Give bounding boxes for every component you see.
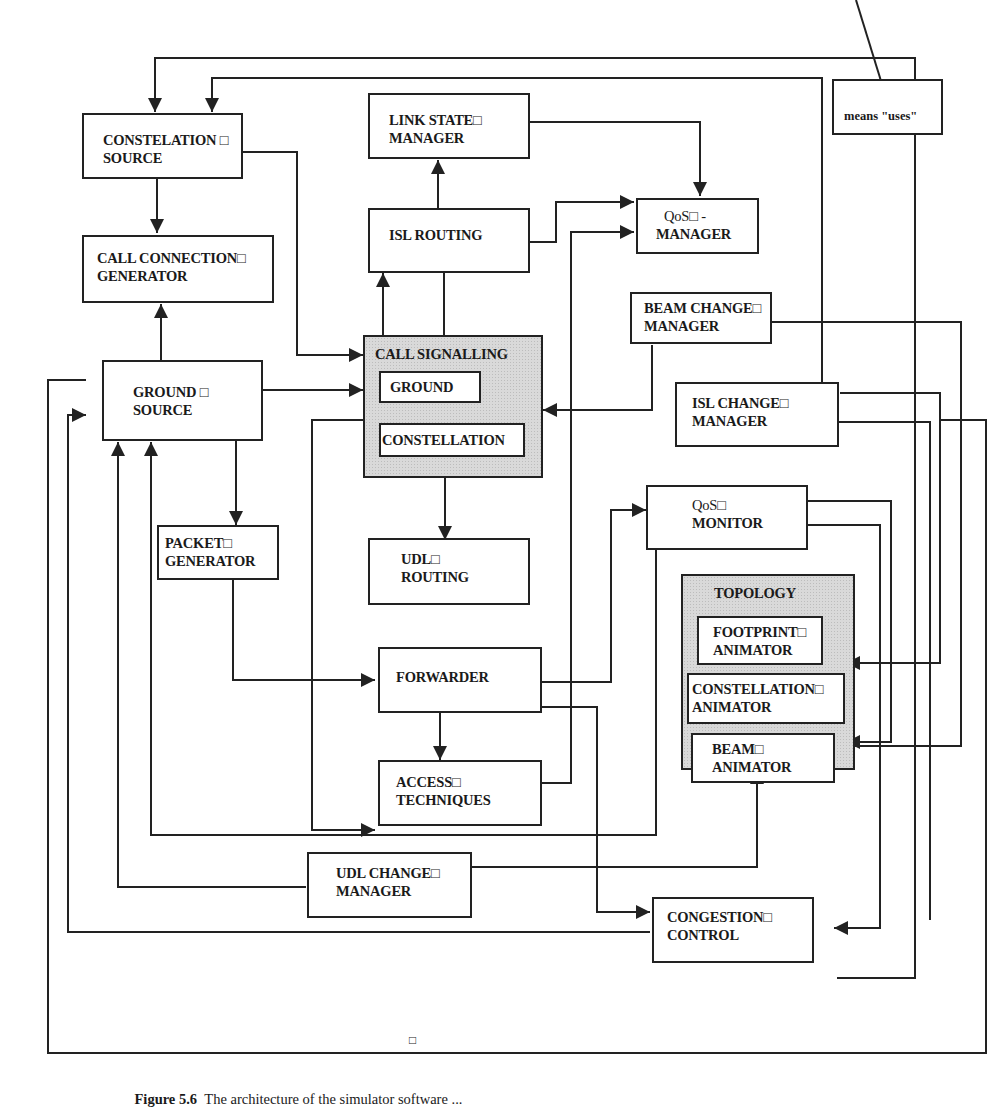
footprint-animator-label-1: FOOTPRINT□ <box>713 624 806 641</box>
call-signalling-ground-box[interactable]: GROUND <box>379 371 481 403</box>
udl-change-manager-box[interactable]: UDL CHANGE□ MANAGER <box>307 852 472 918</box>
beam-animator-box[interactable]: BEAM□ ANIMATOR <box>691 733 835 783</box>
isl-change-manager-label-2: MANAGER <box>692 413 767 430</box>
qos-manager-label-2: MANAGER <box>656 226 731 243</box>
ground-source-label-1: GROUND □ <box>133 384 208 401</box>
congestion-control-label-1: CONGESTION□ <box>667 909 772 926</box>
udl-routing-label-2: ROUTING <box>401 569 469 586</box>
call-signalling-title: CALL SIGNALLING <box>375 346 508 363</box>
legend-box: means "uses" <box>832 79 943 135</box>
call-connection-generator-box[interactable]: CALL CONNECTION□ GENERATOR <box>82 235 274 303</box>
link-state-manager-box[interactable]: LINK STATE□ MANAGER <box>368 93 530 159</box>
topology-title: TOPOLOGY <box>714 585 796 602</box>
constellation-animator-label-1: CONSTELLATION□ <box>692 681 823 698</box>
call-connection-generator-label-2: GENERATOR <box>97 268 187 285</box>
qos-monitor-label-2: MONITOR <box>692 515 763 532</box>
forwarder-label: FORWARDER <box>396 669 489 686</box>
beam-animator-label-1: BEAM□ <box>712 741 763 758</box>
constelation-source-box[interactable]: CONSTELATION □ SOURCE <box>82 113 243 179</box>
access-techniques-box[interactable]: ACCESS□ TECHNIQUES <box>378 760 542 826</box>
footprint-animator-label-2: ANIMATOR <box>713 642 792 659</box>
legend-text: means "uses" <box>844 109 917 124</box>
stray-marker: □ <box>409 1033 416 1048</box>
isl-change-manager-label-1: ISL CHANGE□ <box>692 395 788 412</box>
udl-change-manager-label-1: UDL CHANGE□ <box>336 865 440 882</box>
udl-routing-box[interactable]: UDL□ ROUTING <box>368 538 530 605</box>
qos-monitor-box[interactable]: QoS□ MONITOR <box>646 485 808 550</box>
constellation-animator-label-2: ANIMATOR <box>692 699 771 716</box>
beam-change-manager-label-2: MANAGER <box>644 318 719 335</box>
ground-source-box[interactable]: GROUND □ SOURCE <box>102 360 263 441</box>
figure-caption: Figure 5.6 The architecture of the simul… <box>120 1074 462 1111</box>
udl-change-manager-label-2: MANAGER <box>336 883 411 900</box>
packet-generator-label-2: GENERATOR <box>165 553 255 570</box>
forwarder-box[interactable]: FORWARDER <box>378 647 542 713</box>
constellation-animator-box[interactable]: CONSTELLATION□ ANIMATOR <box>687 673 845 724</box>
qos-monitor-label-1: QoS□ <box>692 497 726 514</box>
footprint-animator-box[interactable]: FOOTPRINT□ ANIMATOR <box>697 616 823 665</box>
qos-manager-label-1: QoS□ - <box>664 208 706 225</box>
ground-source-label-2: SOURCE <box>133 402 192 419</box>
access-techniques-label-2: TECHNIQUES <box>396 792 491 809</box>
call-signalling-constellation-box[interactable]: CONSTELLATION <box>379 423 525 457</box>
congestion-control-box[interactable]: CONGESTION□ CONTROL <box>652 897 814 963</box>
isl-change-manager-box[interactable]: ISL CHANGE□ MANAGER <box>675 382 839 447</box>
caption-text: The architecture of the simulator softwa… <box>204 1091 462 1107</box>
qos-manager-box[interactable]: QoS□ - MANAGER <box>636 198 759 254</box>
udl-routing-label-1: UDL□ <box>401 551 440 568</box>
isl-routing-box[interactable]: ISL ROUTING <box>368 208 530 273</box>
constelation-source-label-1: CONSTELATION □ <box>103 132 228 149</box>
caption-label: Figure 5.6 <box>135 1091 198 1107</box>
isl-routing-label: ISL ROUTING <box>389 227 482 244</box>
call-signalling-constellation-label: CONSTELLATION <box>382 432 505 449</box>
constelation-source-label-2: SOURCE <box>103 150 162 167</box>
packet-generator-box[interactable]: PACKET□ GENERATOR <box>157 525 279 580</box>
link-state-manager-label-2: MANAGER <box>389 130 464 147</box>
link-state-manager-label-1: LINK STATE□ <box>389 112 482 129</box>
congestion-control-label-2: CONTROL <box>667 927 739 944</box>
access-techniques-label-1: ACCESS□ <box>396 774 461 791</box>
beam-change-manager-label-1: BEAM CHANGE□ <box>644 300 761 317</box>
topology-box[interactable]: TOPOLOGY FOOTPRINT□ ANIMATOR CONSTELLATI… <box>681 574 855 770</box>
call-signalling-ground-label: GROUND <box>390 379 453 396</box>
packet-generator-label-1: PACKET□ <box>165 535 232 552</box>
call-signalling-box[interactable]: CALL SIGNALLING GROUND CONSTELLATION <box>363 335 543 478</box>
beam-animator-label-2: ANIMATOR <box>712 759 791 776</box>
beam-change-manager-box[interactable]: BEAM CHANGE□ MANAGER <box>630 292 772 344</box>
call-connection-generator-label-1: CALL CONNECTION□ <box>97 250 246 267</box>
